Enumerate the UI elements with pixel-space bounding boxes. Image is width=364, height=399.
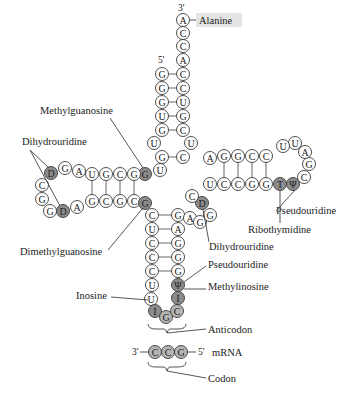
svg-text:C: C [180,83,187,94]
svg-text:A: A [179,15,187,26]
variable-loop: A G G D C [184,190,217,229]
nucleotide: C [232,178,245,191]
nucleotide: G [172,237,185,250]
svg-text:G: G [46,206,53,217]
nucleotide: C [146,237,159,250]
nucleotide: C [246,150,259,163]
methylguanosine-label: Methylguanosine [40,105,113,116]
nucleotide: G [86,195,99,208]
codon-nucleotide: C [149,346,162,359]
mrna-three-prime-label: 3' [132,347,139,357]
nucleotide: G [260,178,273,191]
svg-text:A: A [301,147,309,158]
svg-text:C: C [103,196,110,207]
svg-text:U: U [148,280,156,291]
five-prime-end-label: 5' [158,55,165,65]
nucleotide: C [146,251,159,264]
pseudouridine-anticodon-label: Pseudouridine [208,259,268,270]
three-prime-end-label: 3' [178,3,185,13]
dihydrouridine-nucleotide: D [45,167,58,180]
svg-text:U: U [187,138,195,149]
nucleotide: C [260,150,273,163]
svg-text:U: U [156,165,164,176]
nucleotide: C [298,171,311,184]
nucleotide: A [204,152,217,165]
svg-text:I: I [153,306,156,317]
svg-text:C: C [221,179,228,190]
svg-text:C: C [180,152,187,163]
nucleotide: G [44,205,57,218]
svg-text:G: G [88,196,95,207]
svg-text:U: U [88,169,96,180]
nucleotide: U [185,137,198,150]
codon-nucleotide: C [162,346,175,359]
nucleotide: G [172,251,185,264]
svg-text:G: G [158,152,165,163]
svg-text:G: G [130,169,137,180]
svg-text:C: C [301,172,308,183]
svg-text:C: C [149,210,156,221]
svg-text:G: G [206,210,213,221]
svg-text:D: D [198,198,205,209]
nucleotide: G [156,151,169,164]
svg-text:I: I [176,293,179,304]
codon-nucleotide: G [175,346,188,359]
alanine-label: Alanine [199,15,233,26]
nucleotide: G [218,150,231,163]
svg-text:G: G [179,111,186,122]
nucleotide: C [218,178,231,191]
nucleotide: G [303,158,316,171]
pseudouridine-nucleotide: Ψ [172,279,185,292]
nucleotide: C [177,40,190,53]
nucleotide: G [100,168,113,181]
svg-text:U: U [147,294,155,305]
nucleotide: G [232,150,245,163]
svg-text:C: C [263,151,270,162]
svg-text:A: A [75,166,83,177]
ribothymidine-label: Ribothymidine [248,224,311,235]
svg-text:G: G [116,196,123,207]
nucleotide: U [204,178,217,191]
nucleotide: G [246,178,259,191]
svg-text:G: G [234,151,241,162]
svg-text:G: G [177,347,184,358]
nucleotide: C [177,27,190,40]
svg-text:C: C [180,41,187,52]
svg-text:U: U [179,97,187,108]
svg-text:A: A [73,202,81,213]
svg-text:C: C [180,125,187,136]
svg-text:C: C [235,179,242,190]
nucleotide: G [172,209,185,222]
dimethylguanosine-nucleotide: G [139,197,152,210]
svg-text:C: C [174,306,181,317]
nucleotide: U [277,140,290,153]
nucleotide: A [299,146,312,159]
svg-text:G: G [305,159,312,170]
svg-text:T: T [277,179,283,190]
nucleotide: G [156,68,169,81]
svg-text:G: G [196,217,203,228]
svg-text:C: C [149,266,156,277]
trna-cloverleaf-diagram: 3' 5' Alanine A C C A C C U G C U C G G … [0,0,364,399]
svg-text:G: G [174,266,181,277]
nucleotide: A [177,54,190,67]
nucleotide: U [145,293,158,306]
nucleotide: G [172,265,185,278]
anticodon-arm: C U C C C U U I G C I Ψ G G G A G [145,209,185,324]
svg-text:G: G [61,163,68,174]
acceptor-stem-5prime-strand: G G G U G U G U [148,68,169,177]
svg-text:C: C [39,180,46,191]
mrna-codon: 3' C C G 5' mRNA Codon [132,346,243,385]
nucleotide: C [146,265,159,278]
svg-text:C: C [189,191,196,202]
svg-text:U: U [206,179,214,190]
svg-text:G: G [158,69,165,80]
acceptor-stem-3prime-strand: A C C A C C U G C U C [177,14,198,164]
svg-text:G: G [38,194,45,205]
nucleotide: C [186,190,199,203]
svg-text:G: G [158,83,165,94]
svg-text:C: C [165,347,172,358]
svg-text:Ψ: Ψ [174,280,182,291]
nucleotide: U [289,137,302,150]
svg-text:U: U [148,224,156,235]
